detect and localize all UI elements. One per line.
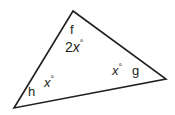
vertex-label-f: f (70, 23, 74, 36)
triangle-shape (0, 0, 175, 115)
angle-label-left-x: x° (44, 76, 54, 89)
triangle-diagram: f 2x° h x° x° g (0, 0, 175, 115)
degree-symbol-top: ° (80, 38, 84, 48)
angle-label-right-x: x° (112, 64, 122, 77)
triangle-outline (14, 11, 166, 108)
vertex-label-h: h (28, 85, 35, 98)
angle-variable-top: x (73, 39, 80, 55)
vertex-label-g: g (132, 64, 139, 77)
degree-symbol-right: ° (119, 62, 123, 72)
degree-symbol-left: ° (51, 74, 55, 84)
angle-coefficient-top: 2 (65, 39, 73, 55)
angle-label-top-2x: 2x° (65, 40, 83, 54)
